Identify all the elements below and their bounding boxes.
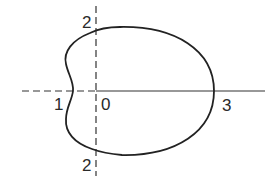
label-origin: 0: [101, 95, 110, 114]
label-y-bottom: 2: [82, 156, 91, 175]
label-x-left: 1: [54, 95, 63, 114]
label-x-right: 3: [222, 96, 231, 115]
label-y-top: 2: [82, 13, 91, 32]
limacon-diagram: 2 2 1 0 3: [0, 0, 276, 182]
